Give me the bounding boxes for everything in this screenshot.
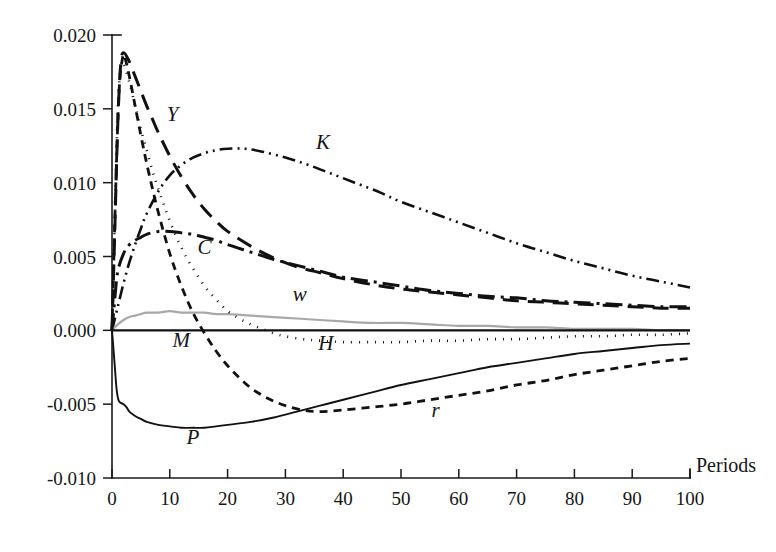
x-tick-label-7: 70 xyxy=(507,488,526,509)
y-tick-label-3: 0.005 xyxy=(53,247,96,268)
x-tick-label-9: 90 xyxy=(623,488,642,509)
axis-ticks-group: -0.010-0.0050.0000.0050.0100.0150.020010… xyxy=(47,25,704,509)
x-tick-label-4: 40 xyxy=(334,488,353,509)
x-tick-label-10: 100 xyxy=(676,488,705,509)
x-tick-label-2: 20 xyxy=(218,488,237,509)
curve-H xyxy=(112,62,690,342)
x-axis-title: Periods xyxy=(696,454,756,476)
curve-label-C: C xyxy=(197,235,212,259)
x-tick-label-5: 50 xyxy=(392,488,411,509)
x-tick-label-6: 60 xyxy=(449,488,468,509)
y-tick-label-5: 0.015 xyxy=(53,99,96,120)
curve-annotations-group: YKCwMHPr xyxy=(167,102,441,449)
x-tick-label-1: 10 xyxy=(160,488,179,509)
chart-figure: -0.010-0.0050.0000.0050.0100.0150.020010… xyxy=(0,0,776,552)
curve-label-K: K xyxy=(315,130,331,154)
curve-label-M: M xyxy=(172,328,192,352)
x-tick-label-3: 30 xyxy=(276,488,295,509)
x-tick-label-8: 80 xyxy=(565,488,584,509)
curve-label-P: P xyxy=(186,425,200,449)
y-tick-label-2: 0.000 xyxy=(53,320,96,341)
curve-label-H: H xyxy=(317,331,335,355)
y-tick-label-4: 0.010 xyxy=(53,173,96,194)
curve-r xyxy=(112,54,690,411)
x-tick-label-0: 0 xyxy=(107,488,117,509)
curve-w xyxy=(112,311,690,330)
curve-Y xyxy=(112,53,690,331)
impulse-response-chart: -0.010-0.0050.0000.0050.0100.0150.020010… xyxy=(0,0,776,552)
curve-label-Y: Y xyxy=(167,102,181,126)
y-tick-label-6: 0.020 xyxy=(53,25,96,46)
curve-label-r: r xyxy=(432,398,441,422)
curve-P xyxy=(112,330,690,428)
curve-label-w: w xyxy=(293,282,307,306)
y-tick-label-0: -0.010 xyxy=(47,468,96,489)
y-tick-label-1: -0.005 xyxy=(47,394,96,415)
axis-labels-group: Periods xyxy=(696,454,756,476)
